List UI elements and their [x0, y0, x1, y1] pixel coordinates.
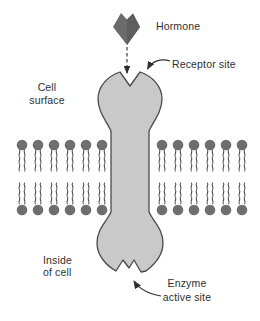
phospholipid	[173, 140, 184, 171]
lipid-tail	[196, 183, 197, 204]
lipid-head	[205, 140, 216, 151]
lipid-tail	[72, 183, 73, 204]
lipid-tail	[164, 183, 165, 204]
phospholipid	[205, 183, 216, 215]
cell-surface-label-line2: surface	[29, 94, 64, 106]
enzyme-active-site-arrow	[134, 281, 161, 296]
lipid-head	[33, 205, 44, 216]
lipid-tail	[83, 183, 84, 204]
lipid-tail	[19, 183, 20, 204]
lipid-tail	[51, 183, 52, 204]
lipid-tail	[56, 183, 57, 204]
phospholipid	[81, 140, 92, 171]
lipid-tail	[239, 150, 240, 171]
hormone-label: Hormone	[156, 20, 200, 32]
lipid-head	[65, 205, 76, 216]
phospholipid	[17, 183, 28, 215]
lipid-tail	[207, 183, 208, 204]
lipid-head	[81, 205, 92, 216]
lipid-head	[17, 205, 28, 216]
lipid-tail	[223, 150, 224, 171]
lipid-tail	[104, 150, 105, 171]
lipid-tail	[24, 183, 25, 204]
lipid-tail	[88, 183, 89, 204]
lipid-tail	[88, 150, 89, 171]
lipid-head	[237, 205, 248, 216]
lipid-tail	[40, 183, 41, 204]
lipid-tail	[35, 183, 36, 204]
lipid-tail	[212, 183, 213, 204]
lipid-head	[97, 140, 108, 151]
lipid-tail	[239, 183, 240, 204]
inside-of-cell-label-line2: of cell	[43, 266, 71, 278]
lipid-tail	[175, 183, 176, 204]
hormone-receptor-diagram: Hormone Receptor site Cell surface Insid…	[0, 0, 260, 321]
lipid-head	[221, 140, 232, 151]
lipid-tail	[67, 150, 68, 171]
lipid-head	[205, 205, 216, 216]
phospholipid	[65, 140, 76, 171]
lipid-head	[237, 140, 248, 151]
lipid-tail	[72, 150, 73, 171]
lipid-head	[17, 140, 28, 151]
lipid-tail	[51, 150, 52, 171]
lipid-tail	[244, 183, 245, 204]
phospholipid	[173, 183, 184, 215]
enzyme-active-site-label-line1: Enzyme	[168, 277, 207, 289]
lipid-head	[49, 140, 60, 151]
lipid-tail	[35, 150, 36, 171]
lipid-head	[157, 140, 168, 151]
lipid-head	[189, 140, 200, 151]
lipid-tail	[67, 183, 68, 204]
phospholipid	[157, 183, 168, 215]
lipid-tail	[159, 150, 160, 171]
lipid-tail	[212, 150, 213, 171]
lipid-tail	[99, 150, 100, 171]
lipid-tail	[99, 183, 100, 204]
lipid-tail	[40, 150, 41, 171]
lipid-head	[173, 205, 184, 216]
phospholipid	[221, 183, 232, 215]
phospholipid	[33, 140, 44, 171]
phospholipid	[237, 140, 248, 171]
phospholipid	[49, 140, 60, 171]
lipid-tail	[180, 150, 181, 171]
phospholipid	[189, 140, 200, 171]
lipid-tail	[159, 183, 160, 204]
phospholipid	[237, 183, 248, 215]
lipid-tail	[180, 183, 181, 204]
lipid-tail	[104, 183, 105, 204]
enzyme-active-site-label-line2: active site	[163, 291, 211, 303]
phospholipid	[205, 140, 216, 171]
lipid-tail	[164, 150, 165, 171]
diagram-canvas: Hormone Receptor site Cell surface Insid…	[0, 0, 260, 321]
lipid-head	[49, 205, 60, 216]
lipid-tail	[24, 150, 25, 171]
lipid-head	[65, 140, 76, 151]
phospholipid	[97, 140, 108, 171]
phospholipid	[189, 183, 200, 215]
phospholipid	[81, 183, 92, 215]
receptor-site-label: Receptor site	[172, 58, 236, 70]
lipid-tail	[56, 150, 57, 171]
hormone-facet	[127, 14, 140, 46]
lipid-tail	[83, 150, 84, 171]
lipid-head	[173, 140, 184, 151]
phospholipid	[17, 140, 28, 171]
receptor-protein-shape	[97, 72, 163, 272]
lipid-tail	[228, 150, 229, 171]
lipid-head	[33, 140, 44, 151]
lipid-head	[157, 205, 168, 216]
cell-surface-label-line1: Cell	[38, 81, 57, 93]
lipid-tail	[207, 150, 208, 171]
phospholipid	[65, 183, 76, 215]
lipid-tail	[191, 183, 192, 204]
lipid-tail	[175, 150, 176, 171]
lipid-tail	[244, 150, 245, 171]
lipid-tail	[19, 150, 20, 171]
lipid-tail	[196, 150, 197, 171]
phospholipid	[33, 183, 44, 215]
lipid-head	[189, 205, 200, 216]
phospholipid	[49, 183, 60, 215]
phospholipid	[221, 140, 232, 171]
